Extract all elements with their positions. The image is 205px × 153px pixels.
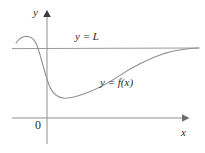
y-axis-arrowhead	[43, 10, 51, 17]
asymptote-label: y = L	[75, 31, 99, 42]
y-axis-label: y	[33, 7, 38, 18]
function-curve-label: y = f(x)	[100, 77, 133, 88]
x-axis-label: x	[181, 127, 186, 138]
function-curve	[16, 36, 199, 98]
origin-label: 0	[35, 119, 41, 131]
math-figure-limit-asymptote: y x 0 y = L y = f(x)	[0, 0, 205, 153]
y-axis	[43, 10, 51, 144]
horizontal-asymptote-line	[12, 48, 199, 49]
x-axis-arrowhead	[182, 114, 190, 122]
